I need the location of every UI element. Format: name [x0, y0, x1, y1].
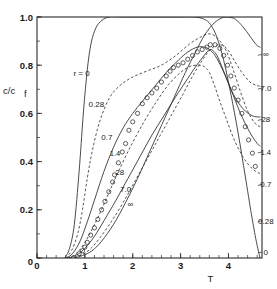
curve-label-left: ∞ [127, 200, 133, 209]
chart-figure: 01234 00.20.40.60.81.0 r = 00.280.71.428… [0, 0, 277, 289]
curve-label-left: 1.4 [110, 149, 120, 158]
x-tick-label: 2 [130, 260, 135, 271]
curve-label-right: 1.4 [261, 148, 271, 157]
curve-label-right: 28 [261, 115, 270, 124]
y-tick-label: 1.0 [20, 12, 33, 23]
y-tick-label: 0.2 [20, 204, 33, 215]
y-axis-title-base: c/c [3, 85, 15, 96]
chart-background [0, 0, 277, 289]
curve-label-right: 0.28 [258, 217, 274, 226]
curve-label-left: 0.28 [89, 100, 105, 109]
curve-label-left: 28 [115, 168, 124, 177]
x-tick-label: 0 [34, 260, 39, 271]
y-tick-label: 0.8 [20, 60, 33, 71]
y-axis-title-subscript: f [24, 88, 27, 99]
y-tick-label: 0 [28, 256, 33, 267]
curve-label-left: 0.7 [101, 133, 113, 142]
curve-label-right: 7.0 [260, 84, 272, 93]
x-tick-label: 3 [178, 260, 183, 271]
curve-label-left: 7.0 [120, 185, 132, 194]
y-tick-label: 0.6 [20, 108, 33, 119]
x-axis-title: T [207, 273, 213, 284]
x-tick-label: 4 [226, 260, 232, 271]
curve-label-right: 0.7 [260, 180, 272, 189]
x-tick-label: 1 [82, 260, 88, 271]
curve-label-right: ∞ [263, 50, 269, 59]
y-tick-label: 0.4 [20, 156, 34, 167]
curve-label-right: 0 [264, 248, 269, 257]
chart-canvas: 01234 00.20.40.60.81.0 r = 00.280.71.428… [0, 0, 277, 289]
curve-label-left: r = 0 [73, 69, 90, 78]
